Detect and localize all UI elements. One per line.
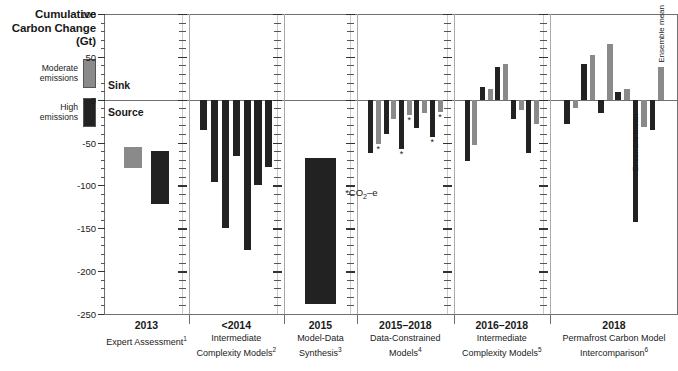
- interior-tick: [540, 220, 547, 221]
- interior-tick: [347, 48, 354, 49]
- y-tick-minor: [101, 211, 105, 212]
- interior-tick: [179, 220, 186, 221]
- interior-tick: [274, 263, 281, 264]
- y-tick-minor: [101, 297, 105, 298]
- x-group-name: Permafrost Carbon Model Intercomparison6: [550, 333, 678, 359]
- interior-tick: [443, 143, 452, 144]
- y-tick-minor: [101, 203, 105, 204]
- y-tick-minor: [101, 40, 105, 41]
- bar: [384, 100, 389, 134]
- x-group-footnote: 6: [644, 346, 648, 353]
- interior-tick: [347, 151, 354, 152]
- bar: [254, 100, 261, 186]
- interior-axis-ruler: [447, 14, 448, 314]
- interior-tick: [540, 117, 547, 118]
- interior-tick: [443, 228, 452, 229]
- interior-tick: [179, 91, 186, 92]
- bar: [564, 100, 570, 124]
- bar: [438, 100, 443, 112]
- legend-block: Cumulative Carbon Change (Gt) Moderate e…: [0, 8, 104, 127]
- x-group-footnote: 2: [272, 346, 276, 353]
- chart-root: Cumulative Carbon Change (Gt) Moderate e…: [0, 0, 678, 371]
- x-group-name: Intermediate Complexity Models2: [189, 333, 284, 359]
- y-tick-minor: [101, 177, 105, 178]
- x-group-4: 2015–2018Data-Constrained Models4: [357, 314, 453, 371]
- y-tick-minor: [101, 74, 105, 75]
- interior-tick: [179, 177, 186, 178]
- x-group-year: 2015: [284, 319, 357, 331]
- interior-tick: [274, 83, 281, 84]
- interior-tick: [274, 254, 281, 255]
- interior-axis-ruler: [277, 14, 278, 314]
- interior-tick: [178, 57, 187, 58]
- bar: [658, 67, 664, 100]
- co2e-annotation: *CO2–e: [345, 187, 377, 200]
- interior-tick: [347, 263, 354, 264]
- interior-tick: [443, 57, 452, 58]
- interior-tick: [540, 263, 547, 264]
- bar: [151, 151, 169, 204]
- interior-tick: [444, 220, 451, 221]
- interior-tick: [274, 134, 281, 135]
- legend-label: High emissions: [40, 102, 78, 122]
- interior-tick: [346, 228, 355, 229]
- interior-tick: [347, 125, 354, 126]
- y-tick-label: -50: [82, 137, 96, 148]
- interior-tick: [178, 100, 187, 101]
- y-tick-minor: [101, 237, 105, 238]
- legend-item-moderate-emissions: Moderate emissions: [0, 59, 104, 88]
- interior-tick: [347, 237, 354, 238]
- interior-tick: [444, 65, 451, 66]
- interior-tick: [274, 288, 281, 289]
- interior-tick: [540, 83, 547, 84]
- interior-tick: [540, 91, 547, 92]
- interior-tick: [444, 168, 451, 169]
- y-tick-minor: [101, 125, 105, 126]
- bar: [534, 100, 539, 124]
- interior-tick: [444, 151, 451, 152]
- interior-tick: [274, 237, 281, 238]
- y-tick-minor: [101, 91, 105, 92]
- x-group-footnote: 3: [338, 346, 342, 353]
- interior-tick: [444, 203, 451, 204]
- bar: [124, 147, 142, 168]
- interior-tick: [347, 74, 354, 75]
- legend: Moderate emissionsHigh emissions: [0, 59, 104, 127]
- interior-tick: [347, 203, 354, 204]
- interior-tick: [179, 211, 186, 212]
- y-tick-minor: [101, 48, 105, 49]
- y-tick-minor: [101, 151, 105, 152]
- interior-tick: [274, 125, 281, 126]
- group-separator: [550, 14, 551, 314]
- significance-asterisk: *: [400, 150, 404, 159]
- interior-tick: [444, 48, 451, 49]
- bar: [598, 100, 604, 113]
- interior-tick: [540, 237, 547, 238]
- interior-tick: [444, 23, 451, 24]
- bar: [511, 100, 516, 119]
- interior-tick: [274, 65, 281, 66]
- interior-tick: [273, 185, 282, 186]
- y-tick-major: [98, 143, 105, 144]
- interior-tick: [347, 134, 354, 135]
- bar: [376, 100, 381, 145]
- y-tick-label: 50: [85, 51, 96, 62]
- group-separator: [454, 14, 455, 314]
- interior-tick: [539, 185, 548, 186]
- y-tick-label: -100: [77, 180, 96, 191]
- interior-tick: [347, 108, 354, 109]
- interior-tick: [444, 245, 451, 246]
- y-tick-minor: [101, 83, 105, 84]
- interior-tick: [539, 100, 548, 101]
- interior-tick: [179, 40, 186, 41]
- x-group-year: <2014: [189, 319, 284, 331]
- interior-tick: [179, 203, 186, 204]
- bar: [430, 100, 435, 138]
- x-group-name: Intermediate Complexity Models5: [454, 333, 550, 359]
- interior-tick: [179, 83, 186, 84]
- interior-tick: [274, 305, 281, 306]
- x-group-1: 2013Expert Assessment1: [104, 314, 189, 371]
- y-tick-minor: [101, 288, 105, 289]
- y-tick-label: -250: [77, 309, 96, 320]
- interior-tick: [540, 254, 547, 255]
